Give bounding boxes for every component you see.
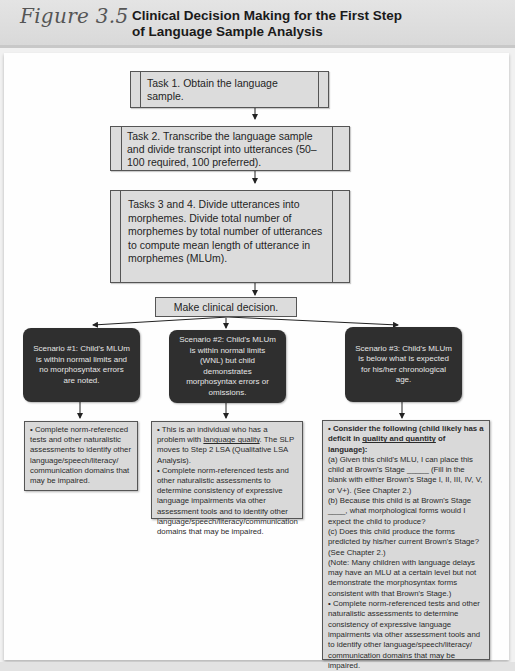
task34-right-bar: [332, 191, 333, 282]
scenario3-item-a: (a) Given this child's MLU, I can place …: [328, 455, 484, 496]
task1-text: Task 1. Obtain the language sample.: [147, 77, 297, 103]
quality-quantity-emphasis: quality and quantity: [362, 434, 436, 443]
task34-left-bar: [120, 191, 121, 282]
task34-box: Tasks 3 and 4. Divide utterances into mo…: [110, 190, 350, 283]
scenario3-outcome-bullet1: • Consider the following (child likely h…: [328, 424, 484, 455]
task2-box: Task 2. Transcribe the language sample a…: [110, 126, 350, 171]
language-quality-emphasis: language quality: [203, 435, 259, 444]
task1-box: Task 1. Obtain the language sample.: [130, 71, 329, 108]
task34-text: Tasks 3 and 4. Divide utterances into mo…: [128, 198, 328, 266]
scenario2-box: Scenario #2: Child's MLUm is within norm…: [169, 330, 286, 403]
scenario1-text: Scenario #1: Child's MLUm is within norm…: [33, 344, 130, 386]
task2-text: Task 2. Transcribe the language sample a…: [127, 130, 327, 169]
task2-right-bar: [332, 127, 333, 170]
task2-left-bar: [121, 127, 122, 170]
scenario2-outcome-box: • This is an individual who has a proble…: [151, 421, 303, 519]
scenario1-box: Scenario #1: Child's MLUm is within norm…: [23, 328, 140, 402]
scenario3-outcome-bullet2: • Complete norm-referenced tests and oth…: [328, 599, 484, 671]
scenario1-outcome-bullet1: • Complete norm-referenced tests and oth…: [30, 425, 132, 486]
scenario2-text: Scenario #2: Child's MLUm is within norm…: [179, 335, 276, 398]
scenario3-item-b: (b) Because this child is at Brown's Sta…: [328, 496, 484, 527]
scenario3-item-c: (c) Does this child produce the forms pr…: [328, 527, 484, 558]
make-decision-box: Make clinical decision.: [155, 297, 297, 317]
task1-right-bar: [318, 72, 319, 107]
scenario3-text: Scenario #3: Child's MLUm is below what …: [355, 344, 452, 386]
scenario3-outcome-box: • Consider the following (child likely h…: [322, 420, 490, 660]
scenario3-note: (Note: Many children with language delay…: [328, 558, 484, 599]
scenario2-outcome-bullet2: • Complete norm-referenced tests and oth…: [157, 466, 297, 537]
task1-left-bar: [140, 72, 141, 107]
scenario2-outcome-bullet1: • This is an individual who has a proble…: [157, 425, 297, 466]
scenario1-outcome-box: • Complete norm-referenced tests and oth…: [24, 421, 138, 491]
scenario3-box: Scenario #3: Child's MLUm is below what …: [345, 327, 462, 402]
